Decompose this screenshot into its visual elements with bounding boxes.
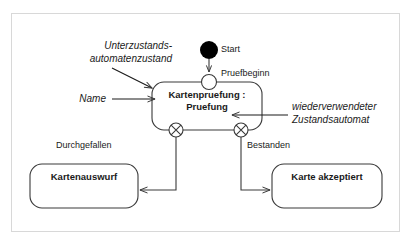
exit-point-durchgefallen-label: Durchgefallen <box>56 140 112 151</box>
annotation-unterzustandsautomatenzustand-line2: automatenzustand <box>25 53 172 65</box>
start-node-label: Start <box>221 44 240 55</box>
kartenpruefung-state-label-line2: Pruefung <box>152 101 262 112</box>
annotation-wiederverwendeter-zustandsautomat-line2: Zustandsautomat <box>292 114 369 126</box>
diagram-canvas: Start Pruefbeginn Kartenpruefung : Pruef… <box>0 0 412 245</box>
exit-point-bestanden-label: Bestanden <box>247 140 290 151</box>
entry-point-label: Pruefbeginn <box>221 68 270 79</box>
leader-line-unterzustandsautomatenzustand <box>112 68 152 88</box>
annotation-wiederverwendeter-zustandsautomat-line1: wiederverwendeter <box>292 101 377 113</box>
exit-point-durchgefallen-shape[interactable] <box>169 123 183 137</box>
exit-point-bestanden-shape[interactable] <box>234 123 248 137</box>
start-node-shape <box>200 41 218 59</box>
transition-durchgefallen <box>140 137 176 190</box>
kartenauswurf-state-label: Kartenauswurf <box>30 171 138 182</box>
annotation-name-label: Name <box>40 93 106 105</box>
kartenpruefung-state-label-line1: Kartenpruefung : <box>152 89 262 100</box>
annotation-unterzustandsautomatenzustand-line1: Unterzustands- <box>25 40 172 52</box>
entry-point-shape[interactable] <box>202 75 217 90</box>
karte-akzeptiert-state-label: Karte akzeptiert <box>272 171 382 182</box>
